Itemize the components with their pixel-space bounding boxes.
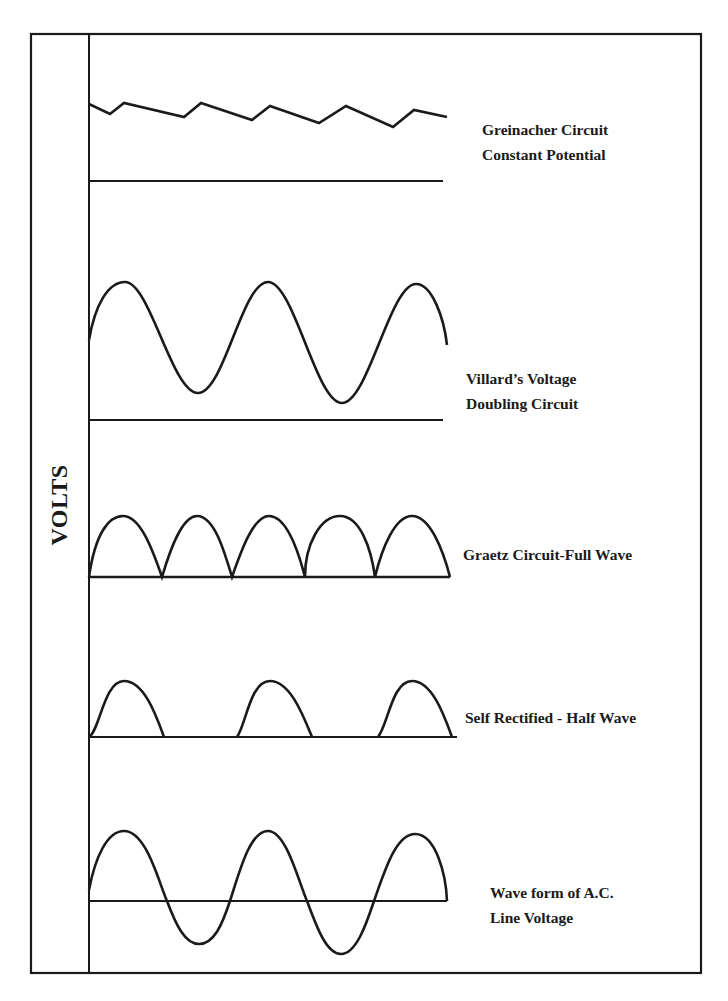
ac-line-label: Wave form of A.C. Line Voltage <box>490 880 614 930</box>
ac-line-panel <box>89 831 447 954</box>
greinacher-label-line-2: Constant Potential <box>482 142 608 167</box>
greinacher-label-line-1: Greinacher Circuit <box>482 117 608 142</box>
self-rectified-label: Self Rectified - Half Wave <box>465 705 636 730</box>
villard-panel <box>89 282 447 420</box>
greinacher-waveform <box>89 103 447 127</box>
waveform-diagram <box>0 0 728 1001</box>
villard-label-line-2: Doubling Circuit <box>466 391 578 416</box>
ac-line-waveform <box>89 831 447 954</box>
self-rectified-waveform <box>89 681 452 737</box>
y-axis-label: VOLTS <box>46 464 73 545</box>
ac-line-label-line-2: Line Voltage <box>490 905 614 930</box>
ac-line-label-line-1: Wave form of A.C. <box>490 880 614 905</box>
greinacher-label: Greinacher Circuit Constant Potential <box>482 117 608 167</box>
villard-label-line-1: Villard’s Voltage <box>466 366 578 391</box>
greinacher-panel <box>89 103 447 181</box>
self-rectified-panel <box>89 681 457 737</box>
graetz-panel <box>89 516 450 577</box>
villard-waveform <box>89 282 447 403</box>
graetz-waveform <box>89 516 450 577</box>
villard-label: Villard’s Voltage Doubling Circuit <box>466 366 578 416</box>
self-rectified-label-line-1: Self Rectified - Half Wave <box>465 705 636 730</box>
graetz-label-line-1: Graetz Circuit-Full Wave <box>463 542 632 567</box>
graetz-label: Graetz Circuit-Full Wave <box>463 542 632 567</box>
